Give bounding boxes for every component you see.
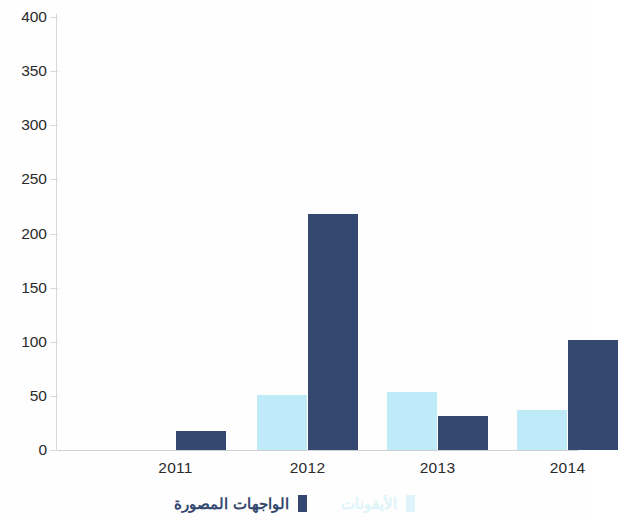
x-axis-label-2014: 2014 [528,459,608,477]
legend-label: الواجهات المصورة [174,496,288,511]
y-axis-tick-label: 350 [0,63,47,79]
bar-covers-2013 [438,416,488,450]
bar-covers-2012 [308,214,358,450]
legend-item[interactable]: الأيقونات [341,495,415,512]
y-axis-tick-label: 300 [0,117,47,133]
x-axis-line [56,450,578,451]
y-axis-tick-label: 400 [0,9,47,25]
y-axis-tick-label: 50 [0,388,47,404]
bar-covers-2011 [176,431,226,450]
y-axis-tick-label: 150 [0,280,47,296]
y-axis-tick-label: 100 [0,334,47,350]
bar-icons-2014 [517,410,567,450]
x-axis-label-2012: 2012 [268,459,348,477]
y-axis-tick-label: 0 [0,442,47,458]
bar-icons-2012 [257,395,307,450]
x-axis-label-2011: 2011 [136,459,216,477]
y-tick-mark [50,450,58,451]
legend-label: الأيقونات [341,496,397,511]
bar-covers-2014 [568,340,618,450]
y-axis-tick-label: 250 [0,171,47,187]
x-axis-label-2013: 2013 [398,459,478,477]
legend-swatch-icon [298,495,307,512]
legend-item[interactable]: الواجهات المصورة [174,495,306,512]
bars-layer [57,17,578,450]
bar-icons-2013 [387,392,437,450]
y-axis-tick-label: 200 [0,226,47,242]
chart-legend: الأيقوناتالواجهات المصورة [0,489,589,517]
legend-swatch-icon [406,495,415,512]
